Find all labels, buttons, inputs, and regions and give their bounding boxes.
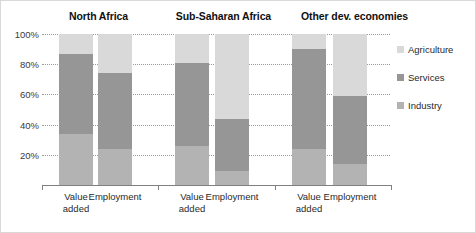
group-title-sub-saharan-africa: Sub-Saharan Africa [161, 10, 286, 22]
bar-segment-services [98, 73, 132, 149]
bar-segment-industry [175, 146, 209, 185]
legend-label: Agriculture [408, 44, 453, 55]
x-axis-tick-mid-2 [275, 185, 276, 190]
bar-3[interactable] [215, 34, 249, 185]
bar-5[interactable] [333, 34, 367, 185]
bar-segment-agriculture [215, 34, 249, 119]
legend-swatch-icon-agriculture [397, 46, 404, 53]
y-axis-label-60: 60% [1, 89, 39, 100]
bar-segment-industry [59, 134, 93, 185]
y-axis: 100%80%60%40%20% [1, 1, 39, 233]
bar-segment-industry [98, 149, 132, 185]
x-axis-tick-left [42, 185, 43, 190]
bar-segment-services [333, 96, 367, 164]
y-axis-label-40: 40% [1, 119, 39, 130]
x-axis-baseline [42, 185, 392, 186]
x-axis-label-5: Employment [320, 191, 380, 203]
bar-2[interactable] [175, 34, 209, 185]
legend-item-industry[interactable]: Industry [397, 91, 476, 119]
bar-segment-agriculture [98, 34, 132, 73]
legend-swatch-icon-industry [397, 102, 404, 109]
legend-item-services[interactable]: Services [397, 63, 476, 91]
plot-area [42, 34, 390, 185]
bar-stack [333, 34, 367, 185]
bar-stack [292, 34, 326, 185]
bar-stack [59, 34, 93, 185]
y-axis-label-20: 20% [1, 149, 39, 160]
bar-4[interactable] [292, 34, 326, 185]
bar-stack [98, 34, 132, 185]
x-axis-tick-mid-1 [158, 185, 159, 190]
bar-segment-services [292, 49, 326, 149]
x-axis-label-3: Employment [202, 191, 262, 203]
chart-container: North Africa Sub-Saharan Africa Other de… [0, 0, 476, 233]
legend-label: Industry [408, 100, 442, 111]
bar-stack [175, 34, 209, 185]
bar-segment-services [215, 119, 249, 172]
bar-1[interactable] [98, 34, 132, 185]
bar-segment-industry [215, 171, 249, 185]
bar-segment-agriculture [292, 34, 326, 49]
x-axis-tick-right [391, 185, 392, 190]
legend-label: Services [408, 72, 444, 83]
bar-segment-services [59, 54, 93, 134]
x-axis-label-1: Employment [85, 191, 145, 203]
group-title-other-dev-economies: Other dev. economies [287, 10, 422, 22]
bar-segment-services [175, 63, 209, 146]
bar-0[interactable] [59, 34, 93, 185]
bar-segment-agriculture [333, 34, 367, 96]
y-axis-label-80: 80% [1, 59, 39, 70]
bar-segment-industry [333, 164, 367, 185]
bar-stack [215, 34, 249, 185]
bar-segment-industry [292, 149, 326, 185]
group-title-north-africa: North Africa [41, 10, 156, 22]
legend-swatch-icon-services [397, 74, 404, 81]
bar-segment-agriculture [59, 34, 93, 54]
legend-item-agriculture[interactable]: Agriculture [397, 35, 476, 63]
bar-segment-agriculture [175, 34, 209, 63]
y-axis-label-100: 100% [1, 29, 39, 40]
legend: AgricultureServicesIndustry [397, 35, 476, 119]
